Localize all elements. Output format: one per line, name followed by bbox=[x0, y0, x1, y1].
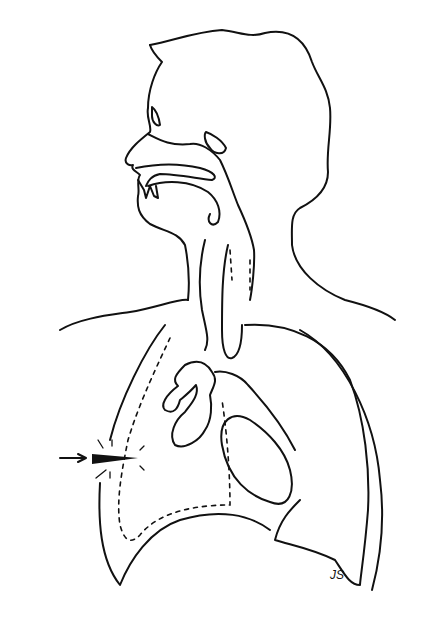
heart bbox=[221, 416, 291, 504]
mediastinum bbox=[215, 372, 295, 450]
esophagus bbox=[222, 245, 242, 358]
face-outline bbox=[126, 45, 189, 300]
collapsed-right-lung bbox=[163, 362, 215, 446]
pharynx-dotted bbox=[230, 250, 250, 290]
eye-icon bbox=[152, 107, 160, 125]
artist-signature: JS bbox=[330, 568, 344, 582]
left-lung bbox=[245, 325, 368, 585]
ear-shape bbox=[205, 132, 226, 153]
anatomy-illustration bbox=[0, 0, 443, 618]
penetrating-object bbox=[92, 454, 138, 464]
trachea bbox=[200, 240, 207, 350]
nasal-cavity bbox=[148, 134, 254, 300]
left-shoulder bbox=[60, 300, 188, 330]
tongue bbox=[148, 182, 220, 224]
pleural-boundary-dotted bbox=[119, 338, 230, 540]
head-outline bbox=[150, 30, 395, 320]
arrow-icon bbox=[60, 454, 86, 462]
